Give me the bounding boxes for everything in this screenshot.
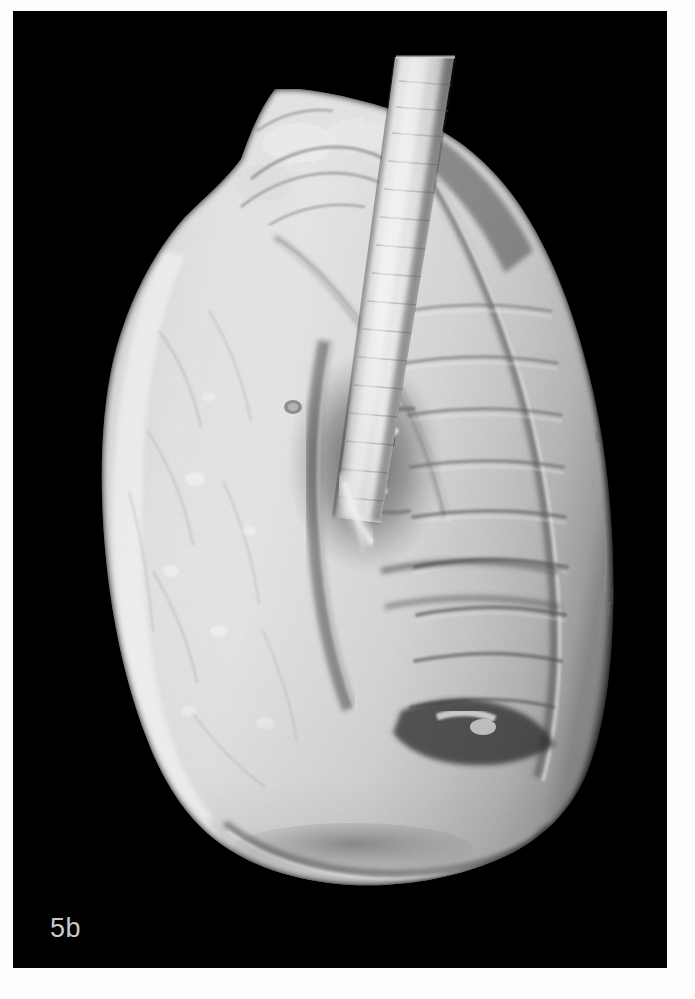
lung-volume-render bbox=[13, 11, 667, 968]
page-sheet: 5b bbox=[0, 0, 695, 999]
figure-panel: 5b bbox=[13, 11, 667, 968]
volume-render-stage bbox=[13, 11, 667, 968]
figure-label: 5b bbox=[50, 913, 81, 944]
